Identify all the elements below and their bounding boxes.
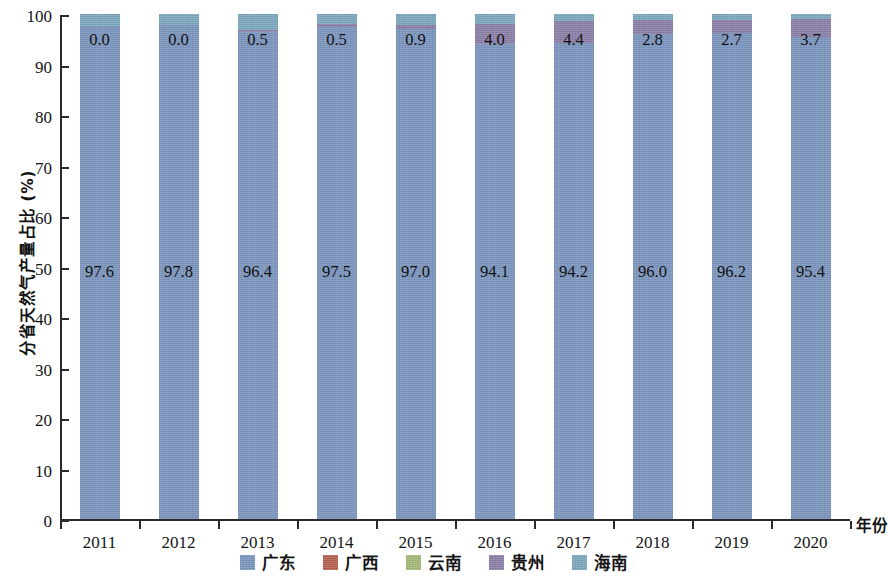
legend-item-1[interactable]: 广西 <box>323 550 380 574</box>
x-tick-mark <box>850 521 852 529</box>
bar-value-label: 97.0 <box>396 262 436 282</box>
bar-segment[interactable] <box>317 14 357 24</box>
x-tick-mark <box>60 521 62 529</box>
bar-top-value-label: 0.5 <box>317 30 357 50</box>
y-tick-label: 20 <box>8 412 52 429</box>
y-tick-mark <box>60 167 69 169</box>
legend-label: 海南 <box>594 550 629 574</box>
bar-segment[interactable] <box>633 14 673 20</box>
bar-texture <box>159 14 199 25</box>
y-tick-mark <box>60 116 69 118</box>
legend-label: 贵州 <box>511 550 546 574</box>
bar-group[interactable]: 97.60.0 <box>80 14 120 519</box>
bar-texture <box>554 14 594 21</box>
bar-group[interactable]: 97.50.5 <box>317 14 357 519</box>
y-tick-label: 30 <box>8 361 52 378</box>
bar-top-value-label: 0.5 <box>238 30 278 50</box>
legend-swatch <box>572 555 587 570</box>
bar-top-value-label: 0.9 <box>396 30 436 50</box>
y-tick-label: 80 <box>8 109 52 126</box>
bar-segment[interactable] <box>396 14 436 25</box>
legend-item-4[interactable]: 海南 <box>572 550 629 574</box>
x-tick-mark <box>376 521 378 529</box>
bar-value-label: 94.1 <box>475 262 515 282</box>
legend-swatch-texture <box>240 555 255 570</box>
bar-group[interactable]: 97.00.9 <box>396 14 436 519</box>
bar-group[interactable]: 96.40.5 <box>238 14 278 519</box>
y-tick-mark <box>60 217 69 219</box>
y-tick-label: 10 <box>8 462 52 479</box>
x-tick-mark <box>455 521 457 529</box>
bar-group[interactable]: 95.43.7 <box>791 14 831 519</box>
legend-label: 广西 <box>345 550 380 574</box>
legend-swatch <box>240 555 255 570</box>
x-tick-mark <box>297 521 299 529</box>
legend-label: 广东 <box>262 550 297 574</box>
bar-texture <box>791 14 831 19</box>
legend-label: 云南 <box>428 550 463 574</box>
bar-segment[interactable] <box>712 14 752 20</box>
legend-swatch <box>323 555 338 570</box>
bar-top-value-label: 0.0 <box>80 30 120 50</box>
bar-top-value-label: 2.8 <box>633 30 673 50</box>
x-tick-mark <box>534 521 536 529</box>
bar-segment[interactable] <box>80 14 120 26</box>
bar-segment[interactable] <box>396 25 436 30</box>
y-tick-mark <box>60 470 69 472</box>
bar-group[interactable]: 94.24.4 <box>554 14 594 519</box>
bar-segment[interactable] <box>238 14 278 30</box>
bar-texture <box>396 14 436 25</box>
y-tick-mark <box>60 66 69 68</box>
y-tick-label: 40 <box>8 311 52 328</box>
bar-texture <box>475 14 515 24</box>
y-tick-label: 70 <box>8 159 52 176</box>
y-tick-label: 100 <box>8 8 52 25</box>
bar-group[interactable]: 97.80.0 <box>159 14 199 519</box>
bar-texture <box>396 25 436 30</box>
bar-segment[interactable] <box>791 14 831 19</box>
bar-top-value-label: 4.4 <box>554 30 594 50</box>
x-axis-title: 年份 <box>856 513 888 535</box>
y-tick-mark <box>60 419 69 421</box>
y-tick-label: 60 <box>8 210 52 227</box>
legend-swatch <box>489 555 504 570</box>
legend-item-2[interactable]: 云南 <box>406 550 463 574</box>
y-tick-mark <box>60 268 69 270</box>
bar-segment[interactable] <box>159 14 199 25</box>
bar-top-value-label: 0.0 <box>159 30 199 50</box>
bar-segment[interactable] <box>554 14 594 21</box>
bar-top-value-label: 4.0 <box>475 30 515 50</box>
y-tick-label: 50 <box>8 260 52 277</box>
bar-group[interactable]: 96.02.8 <box>633 14 673 519</box>
legend-item-3[interactable]: 贵州 <box>489 550 546 574</box>
chart-legend: 广东广西云南贵州海南 <box>0 550 868 574</box>
bar-texture <box>238 14 278 30</box>
legend-swatch-texture <box>572 555 587 570</box>
legend-swatch <box>406 555 421 570</box>
bar-group[interactable]: 96.22.7 <box>712 14 752 519</box>
x-tick-mark <box>692 521 694 529</box>
legend-swatch-texture <box>406 555 421 570</box>
legend-swatch-texture <box>489 555 504 570</box>
y-tick-mark <box>60 318 69 320</box>
y-tick-mark <box>60 15 69 17</box>
bar-value-label: 96.0 <box>633 262 673 282</box>
bar-value-label: 96.4 <box>238 262 278 282</box>
plot-area: 0102030405060708090100 20112012201320142… <box>60 16 850 521</box>
bar-texture <box>712 14 752 20</box>
y-tick-mark <box>60 369 69 371</box>
bar-texture <box>317 24 357 27</box>
legend-swatch-texture <box>323 555 338 570</box>
bar-texture <box>317 14 357 24</box>
legend-item-0[interactable]: 广东 <box>240 550 297 574</box>
bar-segment[interactable] <box>475 14 515 24</box>
bar-top-value-label: 2.7 <box>712 30 752 50</box>
bar-segment[interactable] <box>317 24 357 27</box>
bar-texture <box>633 14 673 20</box>
bar-value-label: 97.5 <box>317 262 357 282</box>
bar-value-label: 95.4 <box>791 262 831 282</box>
y-tick-label: 90 <box>8 58 52 75</box>
x-tick-mark <box>771 521 773 529</box>
bar-group[interactable]: 94.14.0 <box>475 14 515 519</box>
